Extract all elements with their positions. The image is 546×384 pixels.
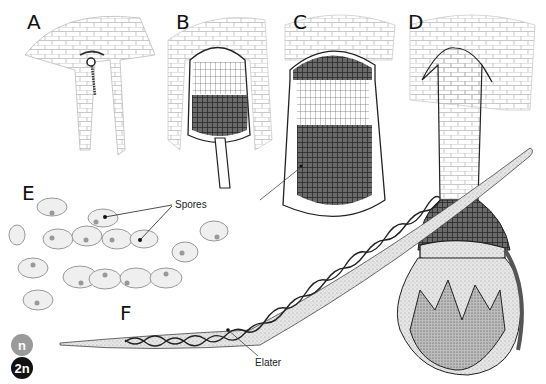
legend-diploid-symbol: 2n [14, 361, 29, 376]
legend-haploid-badge: n [11, 334, 33, 356]
spores-annotation: Spores [175, 200, 207, 210]
panel-label-d: D [408, 12, 423, 32]
panel-c-maturing-sporophyte [260, 15, 395, 216]
legend-diploid-badge: 2n [11, 357, 33, 379]
panel-label-e: E [22, 183, 35, 203]
panel-label-b: B [176, 12, 190, 32]
panel-label-a: A [27, 12, 41, 32]
elater-annotation: Elater [255, 358, 281, 368]
panel-label-c: C [293, 12, 307, 32]
legend-haploid-symbol: n [18, 338, 26, 353]
panel-b-young-sporophyte [168, 18, 272, 189]
panel-a-archegonium [25, 16, 155, 155]
panel-label-f: F [120, 303, 132, 323]
diagram-artwork [0, 0, 546, 384]
